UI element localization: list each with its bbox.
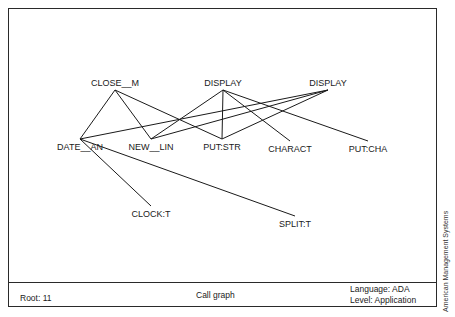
- edge-display1-put_str: [222, 90, 223, 139]
- graph-title: Call graph: [196, 291, 235, 300]
- edge-display1-put_cha: [223, 90, 368, 141]
- edge-display1-new_lin: [151, 90, 223, 139]
- edge-date_an-split_t: [80, 139, 295, 216]
- edge-display2-new_lin: [151, 90, 328, 139]
- node-close_m: CLOSE__M: [91, 79, 139, 88]
- node-charact: CHARACT: [268, 145, 312, 154]
- node-put_str: PUT:STR: [203, 143, 241, 152]
- node-display2: DISPLAY: [309, 79, 346, 88]
- language-label: Language: ADA: [350, 285, 410, 294]
- node-new_lin: NEW__LIN: [128, 143, 173, 152]
- edge-close_m-date_an: [80, 90, 115, 139]
- level-label: Level: Application: [350, 296, 416, 305]
- node-put_cha: PUT:CHA: [349, 145, 388, 154]
- root-label: Root: 11: [20, 294, 52, 303]
- call-graph-edges: [0, 0, 455, 317]
- node-clock_t: CLOCK:T: [131, 210, 170, 219]
- credit-text: American Management Systems: [442, 211, 449, 312]
- node-split_t: SPLIT:T: [279, 220, 311, 229]
- edge-close_m-new_lin: [115, 90, 151, 139]
- edge-display2-date_an: [80, 90, 328, 139]
- node-date_an: DATE__AN: [57, 143, 103, 152]
- node-display1: DISPLAY: [204, 79, 241, 88]
